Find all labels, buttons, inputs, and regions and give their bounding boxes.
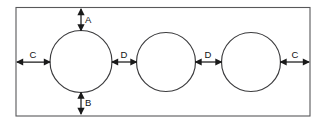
dimension-d-right-label: D xyxy=(205,49,212,60)
dimension-c-left-label: C xyxy=(30,49,37,60)
dimension-diagram: A B C D D xyxy=(0,0,322,126)
dimension-c-right-label: C xyxy=(292,49,299,60)
dimension-b-label: B xyxy=(85,97,91,108)
dimension-d-left-label: D xyxy=(121,49,128,60)
dimension-a-label: A xyxy=(85,14,92,25)
diagram-canvas: A B C D D xyxy=(0,0,322,126)
rectangular-plate-outline xyxy=(16,8,310,117)
